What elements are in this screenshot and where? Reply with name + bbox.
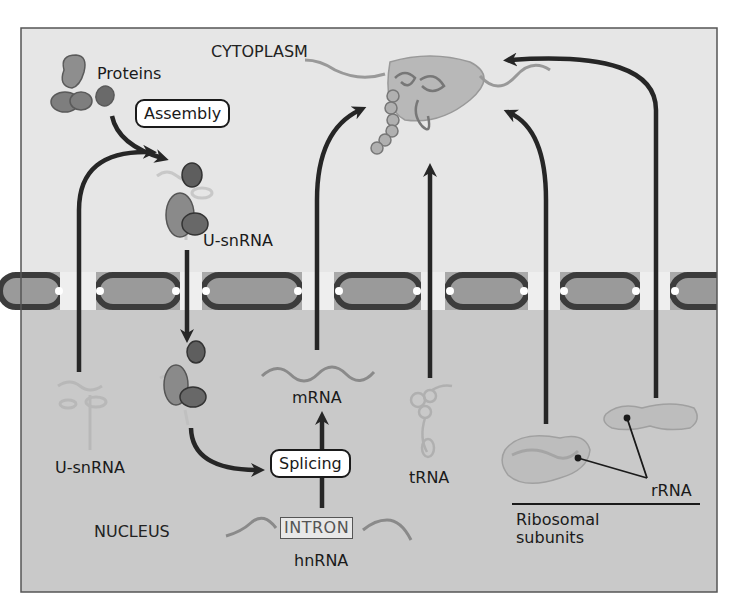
nucleus-region	[21, 306, 717, 592]
diagram-graphics	[0, 0, 743, 612]
rna-transport-diagram: CYTOPLASM NUCLEUS Proteins Assembly U-sn…	[0, 0, 743, 612]
proteins-label: Proteins	[97, 66, 161, 82]
trna-label: tRNA	[409, 470, 449, 486]
mrna-label: mRNA	[292, 390, 342, 406]
ribosomal-subunits-label-line1: Ribosomal	[516, 512, 599, 528]
nuclear-pore	[0, 275, 742, 307]
hnrna-label: hnRNA	[294, 553, 348, 569]
nucleus-label: NUCLEUS	[94, 524, 170, 540]
splicing-step-box: Splicing	[270, 449, 351, 478]
rrna-label: rRNA	[651, 483, 692, 499]
intron-box: INTRON	[280, 517, 353, 539]
ribosomal-subunits-label-line2: subunits	[516, 530, 584, 546]
usnrna-nucleus-label: U-snRNA	[55, 460, 125, 476]
assembly-step-box: Assembly	[135, 99, 230, 128]
cytoplasm-label: CYTOPLASM	[211, 44, 308, 60]
ribosome-small-subunit-icon	[604, 404, 697, 430]
nuclear-envelope	[0, 270, 743, 312]
usnrna-cytoplasm-label: U-snRNA	[203, 233, 273, 249]
